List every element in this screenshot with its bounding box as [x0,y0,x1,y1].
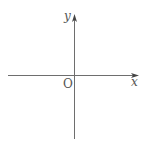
x-axis [8,73,139,78]
y-axis-label: y [63,9,71,23]
coordinate-plane: y O x [0,0,147,143]
origin-label: O [63,77,73,91]
x-axis-label: x [131,75,138,89]
